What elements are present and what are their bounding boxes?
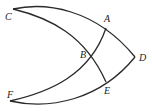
arc-f-b-a — [10, 28, 106, 101]
geometry-diagram: A B C D E F — [0, 0, 152, 111]
label-e: E — [103, 85, 110, 96]
label-f: F — [6, 89, 14, 100]
arc-f-e-d — [10, 57, 135, 104]
label-a: A — [103, 13, 111, 24]
label-d: D — [138, 52, 147, 63]
arc-c-b-e — [13, 9, 106, 82]
label-b: B — [80, 49, 86, 60]
label-c: C — [5, 11, 12, 22]
